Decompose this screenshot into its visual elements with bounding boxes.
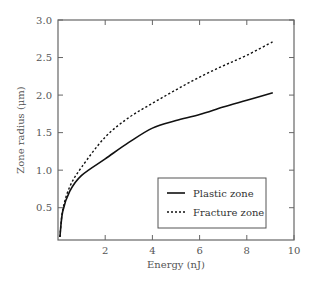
x-tick-label: 4 bbox=[149, 245, 155, 256]
y-tick-label: 1.0 bbox=[36, 165, 52, 176]
x-tick-label: 2 bbox=[102, 245, 108, 256]
y-tick-label: 3.0 bbox=[36, 15, 52, 26]
line-chart: 2468100.51.01.52.02.53.0 Energy (nJ) Zon… bbox=[0, 0, 315, 285]
y-tick-label: 1.5 bbox=[36, 127, 52, 138]
x-tick-label: 10 bbox=[288, 245, 301, 256]
y-tick-label: 2.0 bbox=[36, 90, 52, 101]
y-tick-label: 0.5 bbox=[36, 202, 52, 213]
legend: Plastic zone Fracture zone bbox=[158, 178, 266, 228]
x-tick-label: 6 bbox=[196, 245, 202, 256]
legend-label-plastic-zone: Plastic zone bbox=[193, 188, 254, 199]
x-tick-label: 8 bbox=[244, 245, 250, 256]
y-axis-label: Zone radius (μm) bbox=[15, 86, 26, 173]
legend-label-fracture-zone: Fracture zone bbox=[193, 207, 264, 218]
y-tick-label: 2.5 bbox=[36, 52, 52, 63]
legend-box bbox=[158, 178, 266, 228]
x-axis-label: Energy (nJ) bbox=[147, 259, 205, 270]
